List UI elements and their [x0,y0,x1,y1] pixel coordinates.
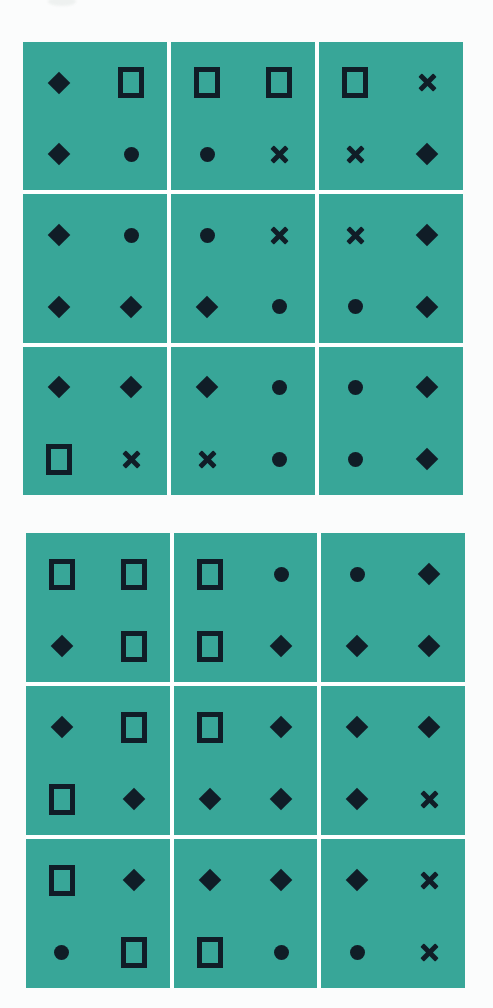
square-icon [46,446,72,472]
diamond-icon [268,867,294,893]
square-icon [197,939,223,965]
symbol-card [319,42,463,190]
cross-icon [416,867,442,893]
diamond-icon [46,374,72,400]
diamond-icon [414,374,440,400]
diamond-icon [416,561,442,587]
diamond-icon [414,141,440,167]
symbol-card [26,839,170,988]
circle-icon [342,446,368,472]
cross-icon [342,141,368,167]
circle-icon [268,561,294,587]
diamond-icon [416,714,442,740]
symbol-card [319,194,463,342]
symbol-card [171,347,315,495]
diamond-icon [46,294,72,320]
diamond-icon [414,446,440,472]
symbol-card [23,42,167,190]
diamond-icon [197,867,223,893]
cross-icon [416,786,442,812]
symbol-card [26,533,170,682]
circle-icon [266,446,292,472]
diamond-icon [414,222,440,248]
cross-icon [266,141,292,167]
bottom-grid [26,533,465,988]
square-icon [197,633,223,659]
symbol-card [171,194,315,342]
circle-icon [266,374,292,400]
diamond-icon [414,294,440,320]
symbol-card [174,839,318,988]
cross-icon [118,446,144,472]
diamond-icon [46,222,72,248]
circle-icon [118,141,144,167]
circle-icon [344,939,370,965]
square-icon [49,786,75,812]
diamond-icon [197,786,223,812]
diamond-icon [49,633,75,659]
circle-icon [49,939,75,965]
square-icon [49,867,75,893]
symbol-card [321,686,465,835]
diamond-icon [344,633,370,659]
square-icon [194,70,220,96]
top-grid [23,42,463,495]
diamond-icon [194,374,220,400]
diamond-icon [46,141,72,167]
circle-icon [266,294,292,320]
diamond-icon [46,70,72,96]
circle-icon [118,222,144,248]
square-icon [342,70,368,96]
diamond-icon [416,633,442,659]
symbol-card [23,347,167,495]
symbol-card [321,839,465,988]
symbol-card [319,347,463,495]
circle-icon [344,561,370,587]
cross-icon [416,939,442,965]
symbol-card [174,686,318,835]
symbol-card [23,194,167,342]
square-icon [197,561,223,587]
square-icon [118,70,144,96]
cross-icon [414,70,440,96]
symbol-card [26,686,170,835]
diamond-icon [194,294,220,320]
diamond-icon [118,294,144,320]
diamond-icon [344,786,370,812]
square-icon [121,561,147,587]
circle-icon [268,939,294,965]
diamond-icon [121,867,147,893]
square-icon [197,714,223,740]
diamond-icon [344,714,370,740]
cross-icon [194,446,220,472]
scan-smudge-artifact [48,0,76,6]
symbol-card [171,42,315,190]
symbol-card [174,533,318,682]
diamond-icon [49,714,75,740]
square-icon [121,633,147,659]
cross-icon [266,222,292,248]
diamond-icon [121,786,147,812]
square-icon [121,939,147,965]
diamond-icon [118,374,144,400]
square-icon [266,70,292,96]
circle-icon [342,294,368,320]
circle-icon [194,141,220,167]
circle-icon [342,374,368,400]
circle-icon [194,222,220,248]
diamond-icon [344,867,370,893]
square-icon [49,561,75,587]
diamond-icon [268,714,294,740]
symbol-card [321,533,465,682]
cross-icon [342,222,368,248]
diamond-icon [268,786,294,812]
diamond-icon [268,633,294,659]
square-icon [121,714,147,740]
